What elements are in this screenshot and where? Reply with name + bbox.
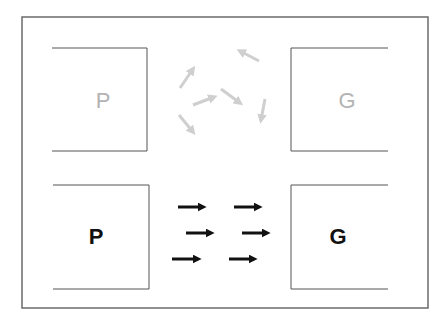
outer-frame xyxy=(22,17,428,308)
gray-arrow-icon-5 xyxy=(240,51,259,61)
diagram-canvas: P G P G xyxy=(0,0,448,320)
disordered-arrows-group xyxy=(179,51,265,132)
gray-arrow-icon-4 xyxy=(221,89,240,103)
gray-arrow-icon-2 xyxy=(193,97,214,105)
gray-arrow-icon-6 xyxy=(261,99,265,120)
gray-arrow-icon-3 xyxy=(179,115,193,132)
bottom-right-label: G xyxy=(329,224,346,249)
top-right-label: G xyxy=(338,88,355,113)
aligned-arrows-group xyxy=(172,207,267,259)
top-left-label: P xyxy=(96,88,111,113)
bottom-left-label: P xyxy=(89,224,104,249)
gray-arrow-icon-1 xyxy=(180,69,193,88)
